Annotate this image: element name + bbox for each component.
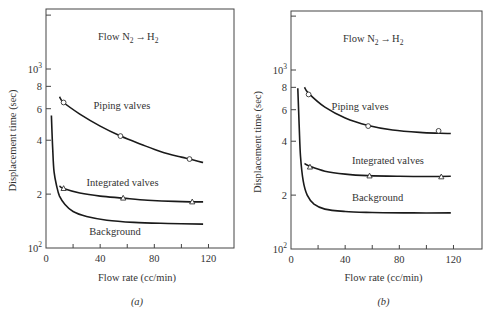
figure: 040801201022468103Flow rate (cc/min)Disp…: [0, 0, 489, 313]
curve-label: Integrated valves: [352, 155, 424, 166]
y-tick-label: 103: [273, 62, 288, 76]
y-axis-label: Displacement time (sec): [252, 90, 264, 193]
series-integrated-valves: Integrated valves: [60, 177, 204, 204]
curve-label: Background: [352, 192, 404, 203]
curve-line: [51, 116, 203, 225]
circle-marker: [436, 128, 441, 133]
x-tick-label: 40: [95, 253, 106, 264]
y-tick-label: 6: [37, 104, 42, 115]
curve-line: [60, 186, 204, 202]
x-tick-label: 80: [149, 253, 160, 264]
circle-marker: [187, 157, 192, 162]
series-piping-valves: Piping valves: [60, 97, 204, 163]
circle-marker: [306, 92, 311, 97]
circle-marker: [61, 100, 66, 105]
panel-a-chart: 040801201022468103Flow rate (cc/min)Disp…: [7, 9, 234, 308]
y-tick-label: 102: [273, 241, 288, 255]
series-piping-valves: Piping valves: [305, 87, 451, 133]
flow-annotation: Flow N2→H2: [343, 33, 404, 47]
curve-label: Integrated valves: [87, 177, 159, 188]
y-tick-label: 102: [28, 240, 43, 254]
panel-b-chart: 040801201022468103Flow rate (cc/min)Disp…: [252, 11, 482, 308]
x-tick-label: 120: [446, 254, 462, 265]
y-tick-label: 8: [37, 81, 42, 92]
y-tick-label: 8: [282, 82, 287, 93]
panel-label: (b): [377, 296, 390, 308]
x-axis-label: Flow rate (cc/min): [344, 272, 423, 284]
flow-annotation: Flow N2→H2: [98, 31, 159, 45]
y-tick-label: 4: [282, 136, 288, 147]
x-tick-label: 80: [394, 254, 405, 265]
y-tick-label: 103: [28, 61, 43, 75]
x-tick-label: 0: [288, 254, 293, 265]
x-tick-label: 120: [201, 253, 217, 264]
series-integrated-valves: Integrated valves: [305, 155, 451, 179]
curve-label: Piping valves: [93, 100, 150, 111]
y-tick-label: 4: [37, 135, 43, 146]
y-tick-label: 2: [37, 189, 42, 200]
y-tick-label: 2: [282, 190, 287, 201]
x-tick-label: 40: [340, 254, 351, 265]
y-axis-label: Displacement time (sec): [7, 89, 19, 192]
panel-label: (a): [131, 296, 144, 308]
y-tick-label: 6: [282, 105, 287, 116]
x-tick-label: 0: [43, 253, 48, 264]
curve-label: Background: [89, 226, 141, 237]
curve-label: Piping valves: [332, 101, 389, 112]
circle-marker: [118, 134, 123, 139]
circle-marker: [366, 124, 371, 129]
x-axis-label: Flow rate (cc/min): [98, 272, 177, 284]
